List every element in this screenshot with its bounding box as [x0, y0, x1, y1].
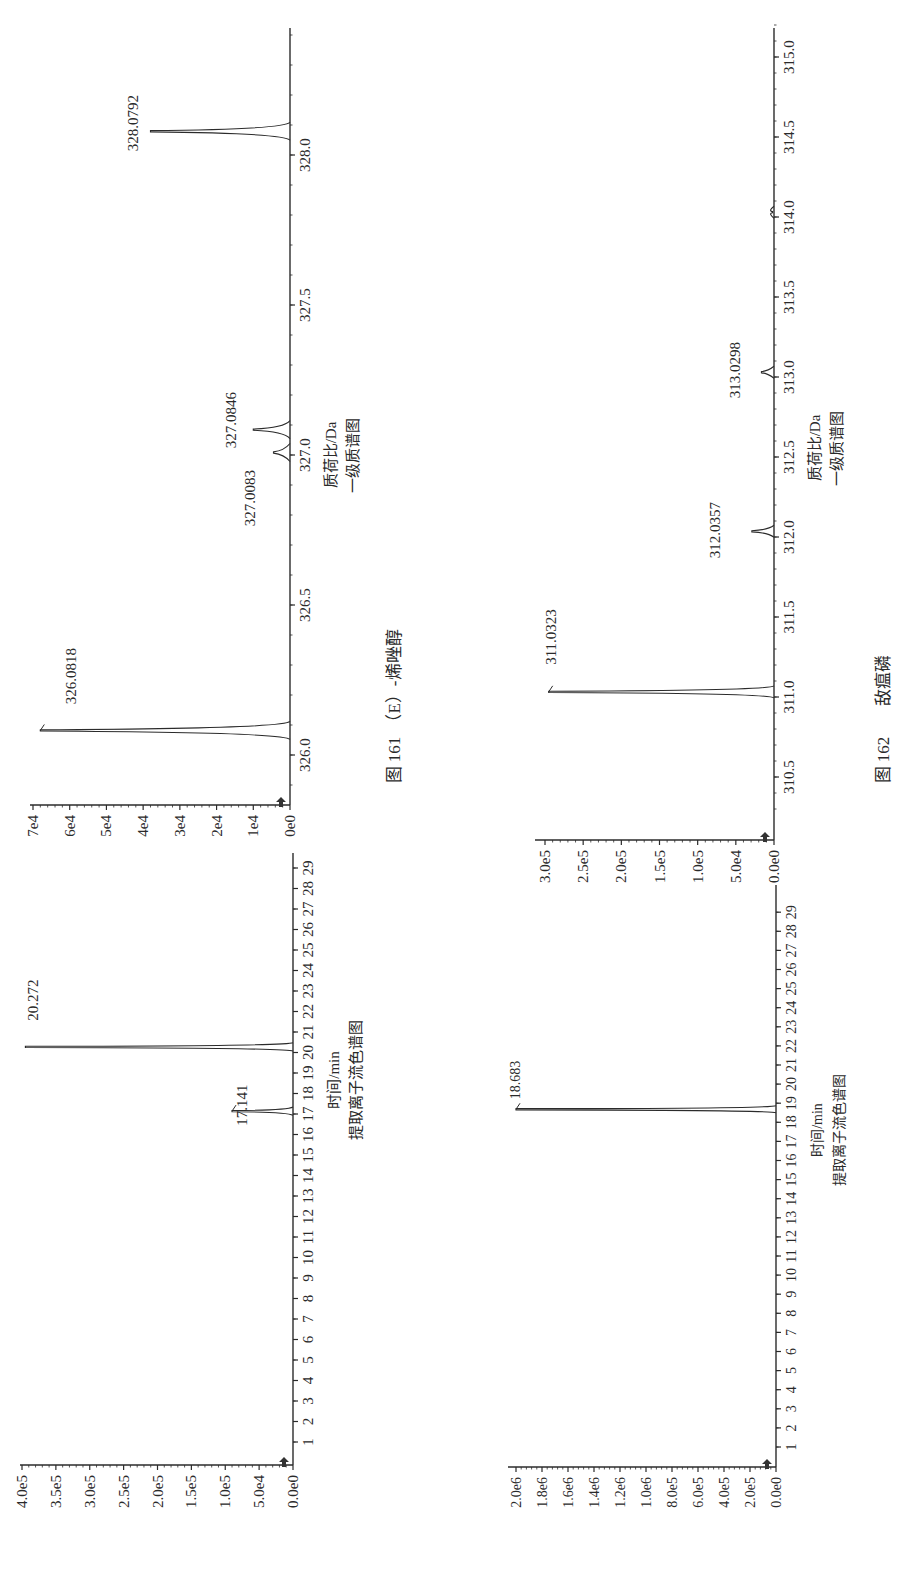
x-tick-label: 7: [784, 1329, 799, 1336]
y-tick-label: 0.0e0: [766, 850, 782, 883]
x-tick-label: 14: [300, 1168, 316, 1184]
x-axis-title: 时间/min: [810, 1103, 825, 1157]
y-tick-label: 1.0e6: [639, 1477, 654, 1508]
x-tick-label: 21: [784, 1058, 799, 1072]
x-tick-label: 29: [300, 861, 316, 876]
fig162-mass-spectrum: [535, 25, 779, 845]
peak-label: 328.0792: [125, 95, 141, 151]
chart-subtitle: 提取离子流色谱图: [831, 1074, 847, 1186]
peak-trace: [273, 444, 290, 462]
x-tick-label: 24: [784, 1001, 799, 1015]
x-tick-label: 13: [784, 1211, 799, 1225]
x-tick-label: 312.0: [781, 520, 797, 554]
peak-label: 327.0083: [242, 470, 258, 526]
x-tick-label: 17: [784, 1134, 799, 1148]
figure-caption-title: （E）-烯唑醇: [385, 629, 404, 730]
y-tick-label: 2.0e6: [509, 1477, 524, 1508]
x-tick-label: 2: [784, 1424, 799, 1431]
x-tick-label: 11: [300, 1230, 316, 1244]
y-tick-label: 2e4: [209, 815, 225, 837]
figure-caption-number: 图 162: [874, 737, 893, 784]
x-tick-label: 16: [784, 1154, 799, 1168]
peak-label: 17.141: [234, 1084, 250, 1125]
y-tick-label: 3e4: [172, 815, 188, 837]
x-tick-label: 311.0: [781, 680, 797, 713]
x-tick-label: 4: [300, 1376, 316, 1384]
y-tick-label: 8.0e5: [665, 1477, 680, 1508]
x-tick-label: 24: [300, 963, 316, 979]
peak-label: 326.0818: [63, 648, 79, 704]
x-tick-label: 8: [784, 1310, 799, 1317]
x-tick-label: 22: [300, 1004, 316, 1019]
x-tick-label: 315.0: [781, 40, 797, 74]
x-tick-label: 1: [300, 1438, 316, 1446]
x-tick-label: 6: [300, 1335, 316, 1343]
y-tick-label: 6e4: [62, 815, 78, 837]
peak-trace: [752, 525, 774, 537]
x-axis-title: 时间/min: [326, 1051, 342, 1109]
x-tick-label: 310.5: [781, 760, 797, 794]
x-tick-label: 13: [300, 1189, 316, 1204]
peak-trace: [40, 721, 290, 739]
y-tick-label: 1.5e5: [183, 1475, 199, 1508]
fig162-chromatogram: [508, 885, 781, 1472]
x-tick-label: 28: [784, 924, 799, 938]
peak-label: 18.683: [508, 1061, 523, 1100]
y-tick-label: 2.5e5: [575, 850, 591, 883]
peak-trace: [25, 1043, 293, 1051]
x-tick-label: 9: [784, 1291, 799, 1298]
x-tick-label: 20: [300, 1045, 316, 1060]
y-tick-label: 5.0e4: [251, 1475, 267, 1508]
x-tick-label: 8: [300, 1295, 316, 1303]
x-tick-label: 18: [784, 1115, 799, 1129]
chart-subtitle: 一级质谱图: [345, 418, 361, 493]
y-tick-label: 2.0e5: [743, 1477, 758, 1508]
x-tick-label: 11: [784, 1249, 799, 1262]
x-tick-label: 23: [784, 1020, 799, 1034]
x-tick-label: 2: [300, 1418, 316, 1426]
x-axis-title: 质荷比/Da: [807, 414, 823, 481]
y-tick-label: 0e0: [282, 815, 298, 837]
x-tick-label: 25: [784, 982, 799, 996]
x-tick-label: 14: [784, 1192, 799, 1206]
x-tick-label: 326.5: [297, 588, 313, 622]
y-tick-label: 3.5e5: [48, 1475, 64, 1508]
peak-trace: [150, 122, 290, 140]
figure-caption-number: 图 161: [385, 737, 404, 784]
y-tick-label: 4.0e5: [717, 1477, 732, 1508]
y-tick-label: 3.0e5: [537, 850, 553, 883]
y-tick-label: 4e4: [135, 815, 151, 837]
x-axis-title: 质荷比/Da: [323, 421, 339, 488]
x-tick-label: 327.5: [297, 288, 313, 322]
y-tick-label: 1.0e5: [217, 1475, 233, 1508]
x-tick-label: 3: [300, 1397, 316, 1405]
x-tick-label: 23: [300, 984, 316, 999]
x-tick-label: 3: [784, 1405, 799, 1412]
x-tick-label: 6: [784, 1348, 799, 1355]
x-tick-label: 1: [784, 1444, 799, 1451]
y-tick-label: 6.0e5: [691, 1477, 706, 1508]
peak-label: 311.0323: [543, 609, 559, 665]
x-tick-label: 7: [300, 1315, 316, 1323]
x-tick-label: 26: [784, 963, 799, 977]
x-tick-label: 20: [784, 1077, 799, 1091]
peak-trace: [516, 1106, 776, 1113]
x-tick-label: 21: [300, 1025, 316, 1040]
x-tick-label: 26: [300, 922, 316, 938]
peak-label: 20.272: [25, 979, 41, 1020]
x-tick-label: 29: [784, 905, 799, 919]
y-tick-label: 4.0e5: [14, 1475, 30, 1508]
y-tick-label: 1.5e5: [652, 850, 668, 883]
x-tick-label: 18: [300, 1086, 316, 1101]
y-tick-label: 7e4: [25, 815, 41, 837]
y-tick-label: 2.0e5: [150, 1475, 166, 1508]
x-tick-label: 15: [300, 1148, 316, 1163]
document-page: 0e01e42e43e44e45e46e47e4326.0326.5327.03…: [0, 0, 905, 1573]
figure-caption-title: 敌瘟磷: [874, 655, 893, 706]
x-tick-label: 12: [300, 1209, 316, 1224]
x-tick-label: 328.0: [297, 138, 313, 172]
y-tick-label: 1.2e6: [613, 1477, 628, 1508]
x-tick-label: 10: [784, 1268, 799, 1282]
x-tick-label: 28: [300, 881, 316, 896]
x-tick-label: 27: [784, 943, 799, 957]
